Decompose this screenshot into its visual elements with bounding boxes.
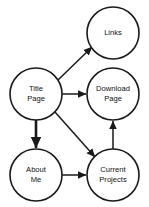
edge-title-to-projects (55, 112, 95, 157)
node-circle-current_projects[interactable] (87, 149, 139, 201)
node-links[interactable]: Links (87, 7, 139, 59)
edge-title-to-links (58, 47, 92, 80)
node-about_me[interactable]: AboutMe (10, 149, 62, 201)
node-circle-links[interactable] (87, 7, 139, 59)
node-current_projects[interactable]: CurrentProjects (87, 149, 139, 201)
nodes-layer: LinksTitlePageDownloadPageAboutMeCurrent… (10, 7, 139, 201)
node-circle-title_page[interactable] (10, 68, 62, 120)
node-circle-about_me[interactable] (10, 149, 62, 201)
diagram-svg: LinksTitlePageDownloadPageAboutMeCurrent… (0, 0, 149, 207)
node-circle-download_page[interactable] (87, 68, 139, 120)
node-title_page[interactable]: TitlePage (10, 68, 62, 120)
node-download_page[interactable]: DownloadPage (87, 68, 139, 120)
site-map-diagram: LinksTitlePageDownloadPageAboutMeCurrent… (0, 0, 149, 207)
